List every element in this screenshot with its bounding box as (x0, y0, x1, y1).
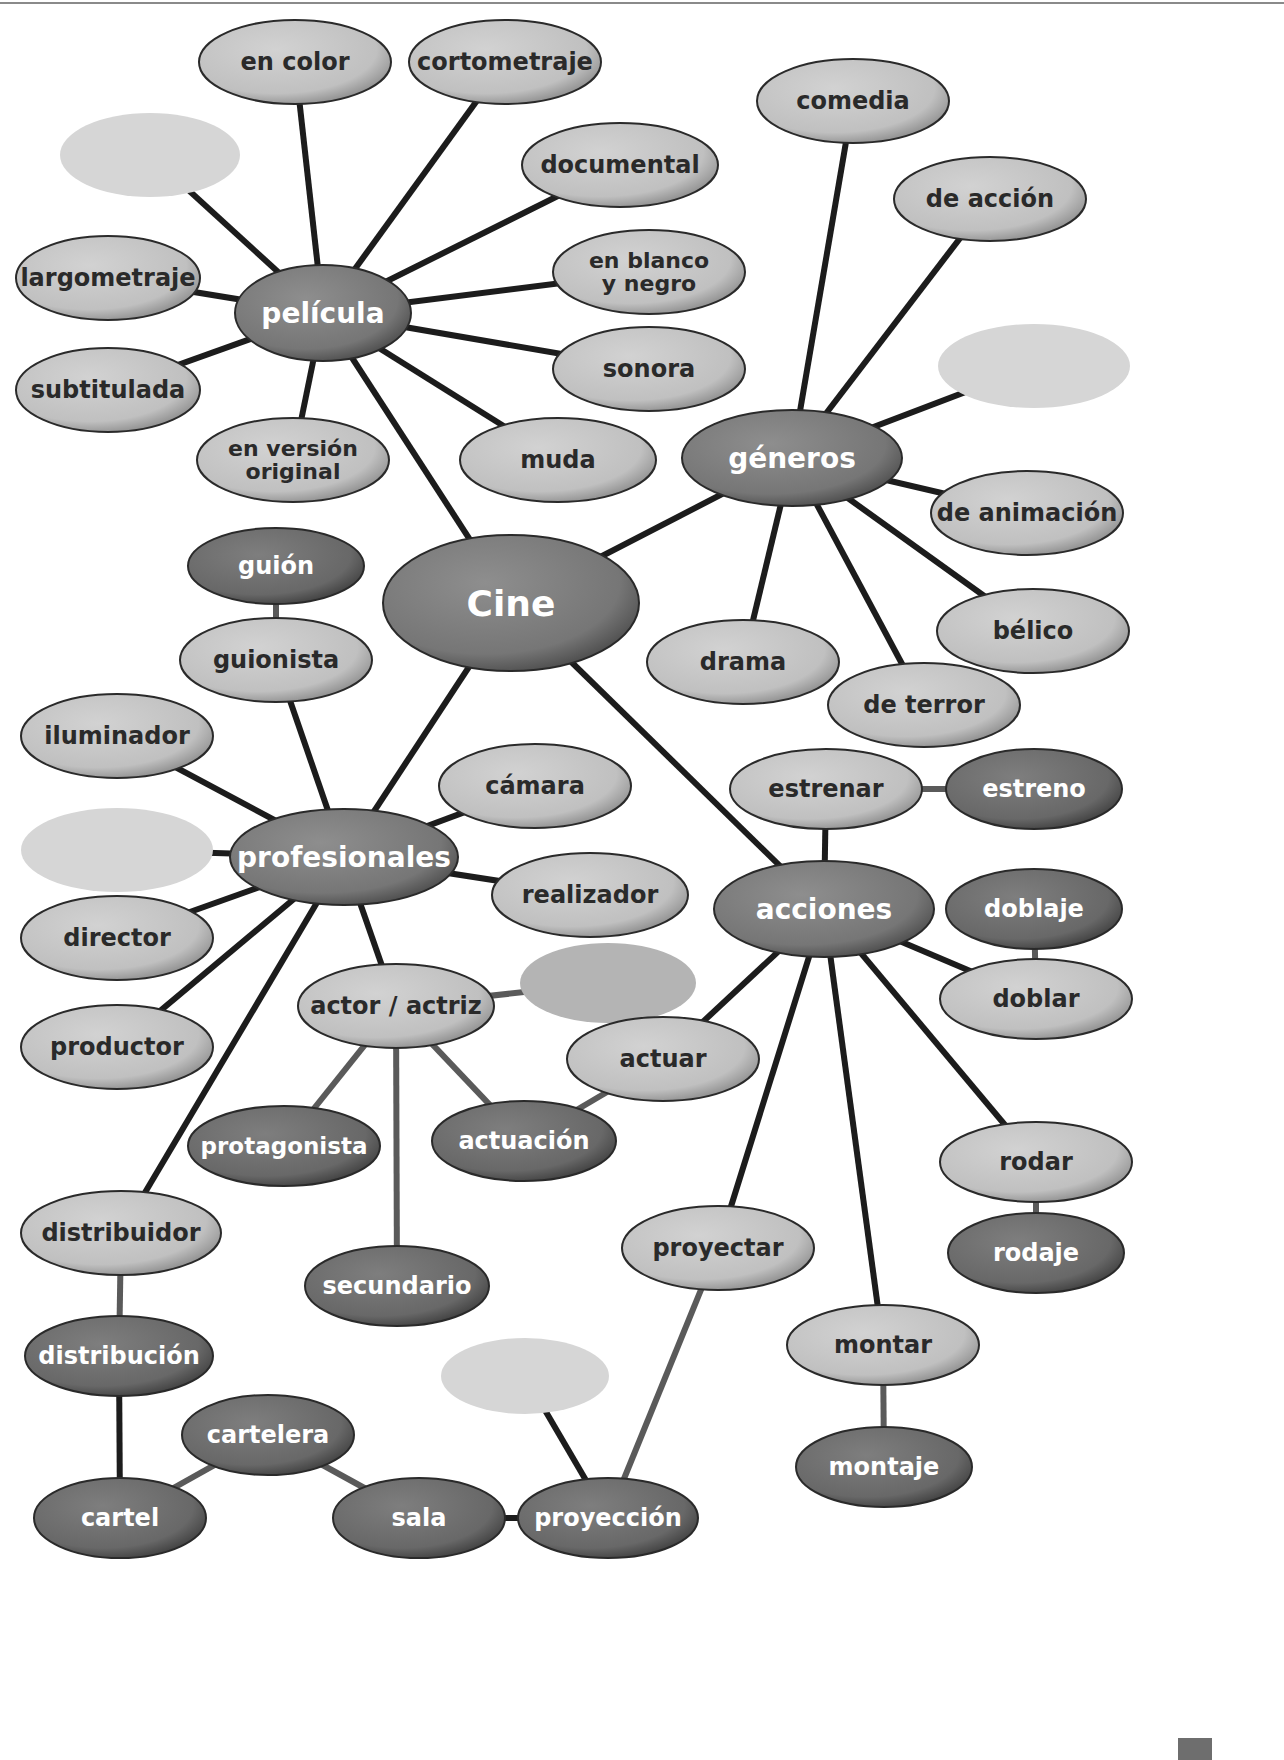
node-label: drama (700, 648, 786, 676)
node-label: estrenar (768, 775, 883, 803)
node-label: guión (238, 552, 314, 580)
node-label: comedia (796, 87, 910, 115)
node-productor: productor (21, 1005, 213, 1089)
node-label: en versión (228, 436, 358, 461)
node-estrenar: estrenar (730, 749, 922, 829)
node-en-version-original: en versiónoriginal (197, 418, 389, 502)
node-drama: drama (647, 620, 839, 704)
blank-node-oval (520, 943, 696, 1023)
node-estreno: estreno (946, 749, 1122, 829)
node-label: estreno (982, 775, 1086, 803)
node-label: bélico (993, 617, 1074, 645)
node-label: géneros (728, 442, 856, 475)
node-blank-actor (520, 943, 696, 1023)
node-cine: Cine (383, 535, 639, 671)
node-documental: documental (522, 123, 718, 207)
node-label: documental (540, 151, 699, 179)
node-proyeccion: proyección (518, 1478, 698, 1558)
node-label: realizador (522, 881, 659, 909)
node-label: en color (241, 48, 350, 76)
node-label: distribución (38, 1342, 200, 1370)
node-label: productor (50, 1033, 184, 1061)
node-label: actor / actriz (310, 992, 482, 1020)
node-distribuidor: distribuidor (21, 1191, 221, 1275)
node-label: acciones (756, 893, 893, 926)
blank-node-oval (441, 1338, 609, 1414)
node-iluminador: iluminador (21, 694, 213, 778)
node-label: y negro (602, 271, 696, 296)
node-blank-generos (938, 324, 1130, 408)
node-label: montaje (829, 1453, 940, 1481)
node-doblar: doblar (940, 959, 1132, 1039)
node-label: iluminador (44, 722, 190, 750)
node-de-terror: de terror (828, 663, 1020, 747)
node-label: largometraje (20, 264, 195, 292)
node-actor-actriz: actor / actriz (298, 964, 494, 1048)
node-en-color: en color (199, 20, 391, 104)
node-rodaje: rodaje (948, 1213, 1124, 1293)
node-realizador: realizador (492, 853, 688, 937)
node-subtitulada: subtitulada (16, 348, 200, 432)
node-rodar: rodar (940, 1122, 1132, 1202)
node-acciones: acciones (714, 861, 934, 957)
node-label: muda (520, 446, 595, 474)
node-protagonista: protagonista (188, 1106, 380, 1186)
edge-generos-comedia (792, 101, 853, 458)
node-blank-profesionales (21, 808, 213, 892)
node-label: original (246, 459, 341, 484)
node-montaje: montaje (796, 1427, 972, 1507)
node-label: secundario (323, 1272, 472, 1300)
node-en-blanco-y-negro: en blancoy negro (553, 230, 745, 314)
node-montar: montar (787, 1305, 979, 1385)
node-label: doblaje (984, 895, 1084, 923)
node-label: profesionales (237, 841, 451, 874)
node-profesionales: profesionales (230, 809, 458, 905)
node-label: cortometraje (417, 48, 593, 76)
node-cortometraje: cortometraje (409, 20, 601, 104)
node-label: de terror (863, 691, 985, 719)
blank-node-oval (60, 113, 240, 197)
node-de-accion: de acción (894, 157, 1086, 241)
node-guionista: guionista (180, 618, 372, 702)
node-distribucion: distribución (25, 1316, 213, 1396)
node-label: proyección (534, 1504, 682, 1532)
node-blank-pelicula (60, 113, 240, 197)
node-belico: bélico (937, 589, 1129, 673)
node-actuacion: actuación (432, 1101, 616, 1181)
node-generos: géneros (682, 410, 902, 506)
node-label: Cine (467, 583, 556, 624)
node-muda: muda (460, 418, 656, 502)
node-label: sala (392, 1504, 447, 1532)
node-sonora: sonora (553, 327, 745, 411)
node-label: doblar (992, 985, 1079, 1013)
node-label: de acción (926, 185, 1054, 213)
node-de-animacion: de animación (931, 471, 1123, 555)
node-label: de animación (937, 499, 1118, 527)
blank-node-oval (938, 324, 1130, 408)
node-director: director (21, 896, 213, 980)
node-label: proyectar (652, 1234, 783, 1262)
node-label: rodar (999, 1148, 1073, 1176)
node-label: en blanco (589, 248, 709, 273)
node-label: película (261, 297, 384, 330)
node-cartel: cartel (34, 1478, 206, 1558)
node-label: sonora (603, 355, 695, 383)
node-blank-proyeccion (441, 1338, 609, 1414)
node-label: actuación (458, 1127, 589, 1155)
node-label: cartelera (207, 1421, 330, 1449)
node-cartelera: cartelera (182, 1395, 354, 1475)
node-label: rodaje (993, 1239, 1079, 1267)
node-actuar: actuar (567, 1017, 759, 1101)
node-label: montar (834, 1331, 932, 1359)
node-guion: guión (188, 528, 364, 604)
node-proyectar: proyectar (622, 1206, 814, 1290)
node-secundario: secundario (305, 1246, 489, 1326)
blank-node-oval (21, 808, 213, 892)
nodes-layer: Cinepelículaen colorcortometrajedocument… (16, 20, 1132, 1558)
node-label: director (63, 924, 171, 952)
node-largometraje: largometraje (16, 236, 200, 320)
node-doblaje: doblaje (946, 869, 1122, 949)
node-label: actuar (619, 1045, 706, 1073)
edge-acciones-montar (824, 909, 883, 1345)
node-label: distribuidor (41, 1219, 200, 1247)
